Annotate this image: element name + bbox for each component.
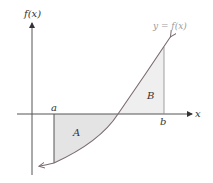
region-label-b: B bbox=[146, 90, 154, 101]
curve-label: y = f(x) bbox=[152, 21, 187, 31]
x-axis-label: x bbox=[195, 108, 201, 119]
y-axis-label: f(x) bbox=[23, 8, 41, 19]
region-label-a: A bbox=[72, 127, 80, 138]
bound-label-a: a bbox=[51, 102, 57, 113]
bound-label-b: b bbox=[160, 116, 166, 127]
area-diagram: f(x) y = f(x) x a b A B bbox=[0, 0, 213, 183]
region-a-shade bbox=[54, 114, 118, 163]
